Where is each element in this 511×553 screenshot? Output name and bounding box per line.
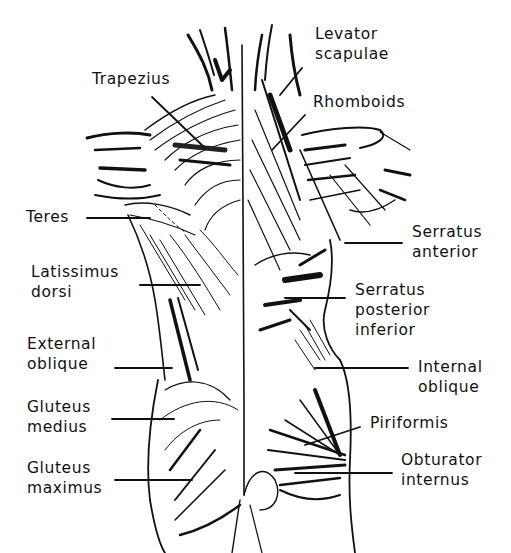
label-serratus-anterior: Serratus anterior [412,222,482,262]
label-external-oblique: External oblique [27,334,96,374]
leader-trapezius [152,97,205,148]
label-line: Levator [315,24,389,44]
label-line: Trapezius [92,69,170,89]
label-levator-scapulae: Levator scapulae [315,24,389,64]
label-line: dorsi [31,282,119,302]
label-piriformis: Piriformis [370,413,449,433]
label-line: inferior [355,320,430,340]
label-line: posterior [355,300,430,320]
label-line: External [27,334,96,354]
label-line: oblique [418,377,483,397]
label-line: Teres [26,207,69,227]
label-line: scapulae [315,44,389,64]
leader-piriformis [305,427,360,445]
label-line: Obturator [401,450,482,470]
label-line: Latissimus [31,262,119,282]
label-line: medius [27,417,91,437]
label-latissimus-dorsi: Latissimus dorsi [31,262,119,302]
label-line: Piriformis [370,413,449,433]
label-line: Gluteus [27,458,102,478]
label-internal-oblique: Internal oblique [418,357,483,397]
label-teres: Teres [26,207,69,227]
label-rhomboids: Rhomboids [313,92,405,112]
muscle-diagram: Trapezius Levator scapulae Rhomboids Ter… [0,0,511,553]
label-line: internus [401,470,482,490]
label-line: maximus [27,478,102,498]
label-line: anterior [412,242,482,262]
label-obturator-internus: Obturator internus [401,450,482,490]
spine-line [242,45,244,495]
label-serratus-posterior-inferior: Serratus posterior inferior [355,280,430,340]
label-line: Gluteus [27,397,91,417]
label-trapezius: Trapezius [92,69,170,89]
label-line: oblique [27,354,96,374]
label-gluteus-maximus: Gluteus maximus [27,458,102,498]
label-line: Serratus [412,222,482,242]
label-line: Serratus [355,280,430,300]
label-line: Internal [418,357,483,377]
label-line: Rhomboids [313,92,405,112]
label-gluteus-medius: Gluteus medius [27,397,91,437]
